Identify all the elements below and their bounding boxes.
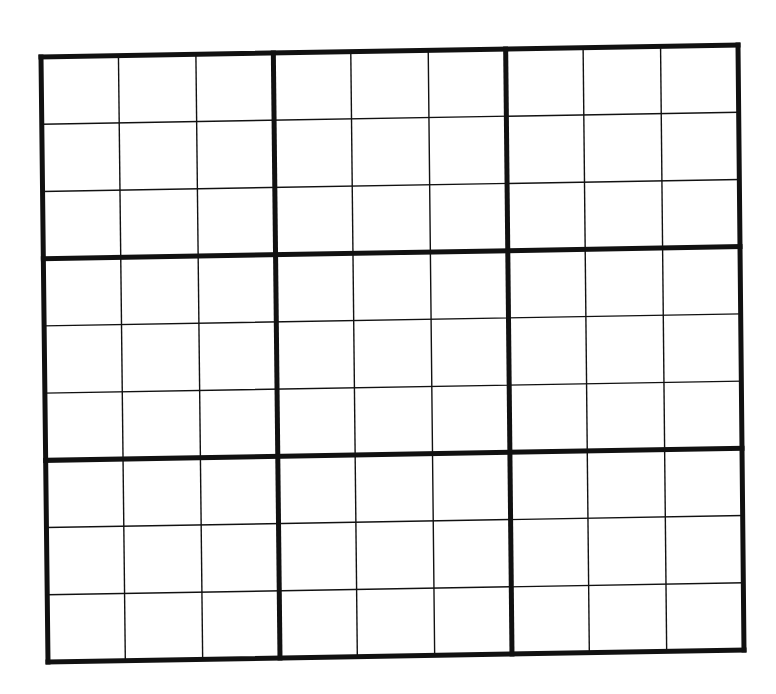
sudoku-cell[interactable] xyxy=(129,198,189,248)
sudoku-cell[interactable] xyxy=(128,131,188,181)
sudoku-cell[interactable] xyxy=(362,261,422,311)
sudoku-cell[interactable] xyxy=(52,267,112,317)
sudoku-cell[interactable] xyxy=(443,596,503,646)
sudoku-cell[interactable] xyxy=(360,60,420,110)
sudoku-cell[interactable] xyxy=(675,592,735,642)
sudoku-cell[interactable] xyxy=(133,534,193,584)
sudoku-cell[interactable] xyxy=(56,536,116,586)
sudoku-cell[interactable] xyxy=(288,599,348,649)
sudoku-cell[interactable] xyxy=(209,398,269,448)
sudoku-cell[interactable] xyxy=(211,600,271,650)
sudoku-cell[interactable] xyxy=(594,190,654,240)
sudoku-cell[interactable] xyxy=(366,597,426,647)
sudoku-cell[interactable] xyxy=(596,392,656,442)
sudoku-cell[interactable] xyxy=(285,263,345,313)
sudoku-cell[interactable] xyxy=(440,327,500,377)
sudoku-cell[interactable] xyxy=(361,194,421,244)
sudoku-cell[interactable] xyxy=(206,130,266,180)
sudoku-cell[interactable] xyxy=(52,199,112,249)
sudoku-cell[interactable] xyxy=(520,528,580,578)
sudoku-cell[interactable] xyxy=(674,458,734,508)
sudoku-cell[interactable] xyxy=(206,197,266,247)
sudoku-cell[interactable] xyxy=(439,193,499,243)
sudoku-cell[interactable] xyxy=(518,393,578,443)
sudoku-cell[interactable] xyxy=(51,132,111,182)
sudoku-cell[interactable] xyxy=(208,331,268,381)
sudoku-cell[interactable] xyxy=(598,593,658,643)
sudoku-cell[interactable] xyxy=(516,191,576,241)
sudoku-cell[interactable] xyxy=(597,526,657,576)
sudoku-cell[interactable] xyxy=(132,467,192,517)
sudoku-cell[interactable] xyxy=(207,264,267,314)
sudoku-cell[interactable] xyxy=(363,396,423,446)
sudoku-cell[interactable] xyxy=(210,533,270,583)
sudoku-cell[interactable] xyxy=(595,325,655,375)
sudoku-cell[interactable] xyxy=(670,54,730,104)
sudoku-cell[interactable] xyxy=(285,330,345,380)
sudoku-cell[interactable] xyxy=(441,394,501,444)
sudoku-cell[interactable] xyxy=(515,124,575,174)
sudoku-cell[interactable] xyxy=(284,195,344,245)
sudoku-cell[interactable] xyxy=(283,128,343,178)
sudoku-cell[interactable] xyxy=(361,127,421,177)
sudoku-cell[interactable] xyxy=(519,460,579,510)
sudoku-cell[interactable] xyxy=(439,260,499,310)
sudoku-cell[interactable] xyxy=(442,529,502,579)
sudoku-cell[interactable] xyxy=(128,64,188,114)
sudoku-cell[interactable] xyxy=(131,333,191,383)
sudoku-cell[interactable] xyxy=(365,530,425,580)
sudoku-cell[interactable] xyxy=(515,57,575,107)
sudoku-cell[interactable] xyxy=(134,601,194,651)
sudoku-cell[interactable] xyxy=(674,525,734,575)
sudoku-cell[interactable] xyxy=(593,123,653,173)
sudoku-cell[interactable] xyxy=(673,390,733,440)
sudoku-cell[interactable] xyxy=(438,126,498,176)
sudoku-cell[interactable] xyxy=(56,603,116,653)
sudoku-cell[interactable] xyxy=(363,329,423,379)
sudoku-cell[interactable] xyxy=(50,65,110,115)
sudoku-cell[interactable] xyxy=(672,323,732,373)
sudoku-cell[interactable] xyxy=(517,259,577,309)
sudoku-cell[interactable] xyxy=(282,61,342,111)
sudoku-cell[interactable] xyxy=(670,122,730,172)
sudoku-cell[interactable] xyxy=(54,401,114,451)
sudoku-cell[interactable] xyxy=(287,464,347,514)
sudoku-cell[interactable] xyxy=(442,462,502,512)
sudoku-cell[interactable] xyxy=(592,56,652,106)
sudoku-cell[interactable] xyxy=(209,466,269,516)
sudoku-cell[interactable] xyxy=(437,58,497,108)
sudoku-cells xyxy=(0,0,776,694)
sudoku-cell[interactable] xyxy=(53,334,113,384)
sudoku-cell[interactable] xyxy=(288,532,348,582)
sudoku-cell[interactable] xyxy=(594,257,654,307)
sudoku-cell[interactable] xyxy=(364,463,424,513)
sudoku-cell[interactable] xyxy=(205,62,265,112)
sudoku-cell[interactable] xyxy=(671,189,731,239)
sudoku-cell[interactable] xyxy=(130,265,190,315)
sudoku-cell[interactable] xyxy=(286,397,346,447)
sudoku-cell[interactable] xyxy=(518,326,578,376)
sudoku-cell[interactable] xyxy=(672,256,732,306)
sudoku-cell[interactable] xyxy=(596,459,656,509)
sudoku-cell[interactable] xyxy=(55,468,115,518)
sudoku-cell[interactable] xyxy=(131,400,191,450)
sudoku-cell[interactable] xyxy=(520,595,580,645)
